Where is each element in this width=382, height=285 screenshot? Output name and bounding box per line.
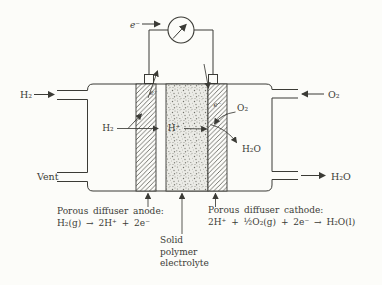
electrolyte-membrane [166,84,208,191]
h-plus-label: H⁺ [168,123,181,133]
anode-caption-reaction: H₂(g) → 2H⁺ + 2e⁻ [57,218,150,228]
cathode-caption-title: Porous diffuser cathode: [208,205,323,215]
h2o-interior-label: H₂O [242,144,261,154]
vent-pipe [57,173,88,182]
h-plus-flow-arrow [184,129,207,130]
vent-label: Vent [36,171,59,182]
electrolyte-caption-line1: Solid [160,235,183,245]
anode-diffuser [136,84,156,191]
electron-flow-label: e⁻ [130,20,140,30]
fuel-cell-diagram: e⁻ e⁻ e⁻ H₂ H⁺ O₂ H₂O H₂ O₂ Vent H₂O Por… [0,0,382,285]
h2o-outlet-label: H₂O [331,171,351,182]
cathode-caption-reaction: 2H⁺ + ½O₂(g) + 2e⁻ → H₂O(l) [208,217,355,227]
electron-cathode-label: e⁻ [214,101,222,109]
o2-inlet-label: O₂ [328,89,340,100]
left-wire [149,30,168,74]
h2-interior-label: H₂ [102,123,114,133]
h2-inlet-pipe [57,91,88,100]
electron-anode-label: e⁻ [150,89,158,97]
right-wire [194,30,213,74]
electrolyte-caption-line2: polymer [160,247,198,257]
electrolyte-caption-line3: electrolyte [160,258,209,268]
anode-terminal [145,75,154,84]
cathode-terminal [209,75,218,84]
h2o-outlet-pipe [272,172,298,180]
h2-inlet-label: H₂ [20,89,32,100]
o2-interior-label: O₂ [237,103,248,113]
anode-caption-title: Porous diffuser anode: [57,206,164,216]
o2-inlet-pipe [272,90,298,99]
